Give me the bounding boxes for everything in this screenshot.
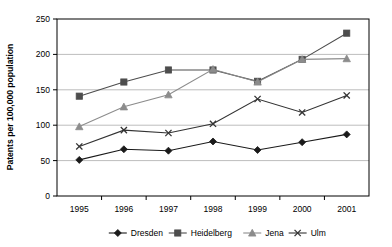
legend-label: Ulm <box>311 228 326 238</box>
chart-container: 050100150200250 199519961997199819992000… <box>0 0 392 247</box>
legend-label: Heidelberg <box>191 228 232 238</box>
legend-item-heidelberg[interactable]: Heidelberg <box>169 228 232 238</box>
y-tick-label: 100 <box>36 120 50 130</box>
legend: DresdenHeidelbergJenaUlm <box>109 228 326 238</box>
y-tick-label: 200 <box>36 49 50 59</box>
marker-square <box>121 79 127 85</box>
legend-item-ulm[interactable]: Ulm <box>289 228 326 238</box>
x-tick-label: 2000 <box>293 204 312 214</box>
y-tick-label: 150 <box>36 85 50 95</box>
y-axis-title: Patents per 100,000 population <box>5 44 15 171</box>
legend-item-dresden[interactable]: Dresden <box>109 228 163 238</box>
y-tick-label: 0 <box>45 191 50 201</box>
marker-diamond <box>114 230 121 237</box>
line-chart: 050100150200250 199519961997199819992000… <box>0 0 392 247</box>
plot-background <box>57 19 369 196</box>
x-tick-label: 1995 <box>70 204 89 214</box>
y-axis-title-label: Patents per 100,000 population <box>5 44 15 171</box>
legend-label: Jena <box>265 228 284 238</box>
legend-label: Dresden <box>131 228 163 238</box>
y-tick-label: 250 <box>36 14 50 24</box>
legend-item-jena[interactable]: Jena <box>243 228 284 238</box>
marker-square <box>175 230 181 236</box>
y-axis: 050100150200250 <box>36 14 57 201</box>
y-tick-label: 50 <box>41 156 51 166</box>
x-tick-label: 1996 <box>114 204 133 214</box>
x-tick-label: 1997 <box>159 204 178 214</box>
x-tick-label: 1999 <box>248 204 267 214</box>
x-tick-label: 2001 <box>337 204 356 214</box>
marker-square <box>344 30 350 36</box>
marker-square <box>165 67 171 73</box>
marker-square <box>76 93 82 99</box>
x-axis: 1995199619971998199920002001 <box>70 196 357 214</box>
x-tick-label: 1998 <box>204 204 223 214</box>
